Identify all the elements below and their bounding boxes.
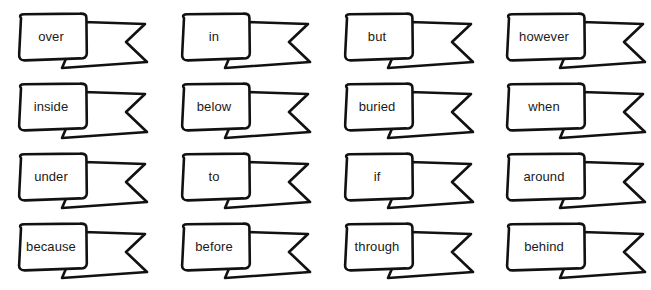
banner-buried[interactable]: buried [340,82,480,144]
banner-but[interactable]: but [340,12,480,74]
banner-when[interactable]: when [502,82,651,144]
banner-inside[interactable]: inside [14,82,154,144]
banner-however[interactable]: however [502,12,651,74]
banner-if[interactable]: if [340,152,480,214]
banner-over[interactable]: over [14,12,154,74]
banner-to[interactable]: to [177,152,317,214]
banner-because[interactable]: because [14,222,154,284]
banner-around[interactable]: around [502,152,651,214]
banner-behind[interactable]: behind [502,222,651,284]
banner-through[interactable]: through [340,222,480,284]
banner-before[interactable]: before [177,222,317,284]
banner-under[interactable]: under [14,152,154,214]
banner-below[interactable]: below [177,82,317,144]
banner-in[interactable]: in [177,12,317,74]
